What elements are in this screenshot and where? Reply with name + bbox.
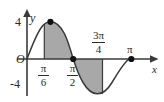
x-tick-pi-over-2-numerator: π xyxy=(69,63,77,74)
y-axis-label: y xyxy=(30,12,35,24)
shaded-region-above-axis xyxy=(44,22,73,59)
x-tick-pi-over-6-denominator: 6 xyxy=(40,77,48,88)
graph-figure: y x O 4 -4 π 6 π 2 3π 4 π xyxy=(0,0,164,102)
x-tick-label-3pi-over-4: 3π 4 xyxy=(92,30,105,55)
marked-point-pi xyxy=(128,56,134,62)
x-tick-3pi-over-4-numerator: 3π xyxy=(92,30,105,41)
origin-label: O xyxy=(16,53,25,65)
x-tick-label-pi-over-6: π 6 xyxy=(38,63,49,88)
x-axis-arrowhead xyxy=(150,55,159,63)
x-tick-3pi-over-4-denominator: 4 xyxy=(95,44,103,55)
y-tick-label-minus-4: -4 xyxy=(10,78,20,90)
x-tick-pi-over-2-denominator: 2 xyxy=(69,77,77,88)
x-axis-label: x xyxy=(152,64,157,75)
x-tick-label-pi: π xyxy=(127,44,133,55)
marked-point-peak xyxy=(47,19,53,25)
y-tick-label-4: 4 xyxy=(15,16,21,28)
x-tick-label-pi-over-2: π 2 xyxy=(67,63,78,88)
x-tick-pi-over-6-numerator: π xyxy=(40,63,48,74)
plot-canvas xyxy=(0,0,164,102)
